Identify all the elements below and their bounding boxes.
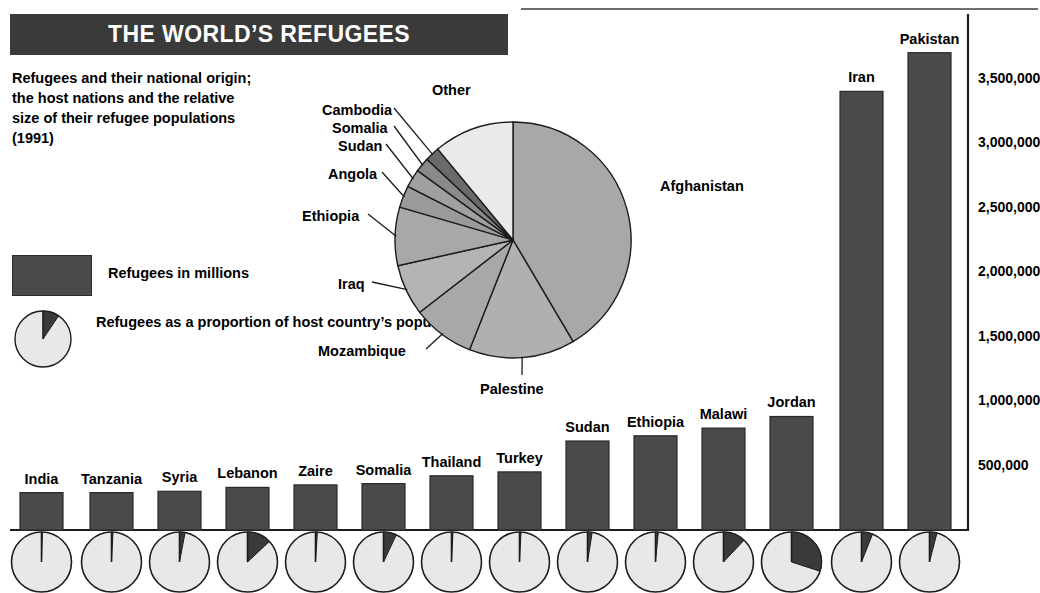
- pie-label-afghanistan: Afghanistan: [660, 178, 744, 194]
- title-bar: THE WORLD’S REFUGEES: [10, 14, 508, 55]
- top-rule-divider: [521, 8, 1038, 10]
- legend-pie-icon: [14, 310, 72, 368]
- y-tick-3500000: 3,500,000: [978, 70, 1040, 86]
- y-tick-2000000: 2,000,000: [978, 263, 1040, 279]
- page-title: THE WORLD’S REFUGEES: [108, 21, 410, 48]
- y-tick-3000000: 3,000,000: [978, 134, 1040, 150]
- legend-pie-label: Refugees as a proportion of host country…: [96, 313, 470, 332]
- pie-label-somalia: Somalia: [332, 120, 388, 136]
- pie-label-palestine: Palestine: [480, 381, 544, 397]
- pie-label-cambodia: Cambodia: [322, 102, 392, 118]
- pie-label-mozambique: Mozambique: [318, 343, 406, 359]
- bar-label-iran: Iran: [812, 69, 912, 85]
- y-tick-2500000: 2,500,000: [978, 199, 1040, 215]
- proportion-pie-row: [12, 532, 960, 592]
- pie-label-other: Other: [432, 82, 471, 98]
- y-tick-1000000: 1,000,000: [978, 392, 1040, 408]
- pie-leader-lines: [368, 108, 522, 375]
- y-tick-500000: 500,000: [978, 457, 1029, 473]
- bar-label-pakistan: Pakistan: [880, 31, 980, 47]
- y-tick-1500000: 1,500,000: [978, 328, 1040, 344]
- pie-label-angola: Angola: [328, 166, 377, 182]
- legend-bar-swatch: [12, 255, 92, 296]
- bar-label-turkey: Turkey: [470, 450, 570, 466]
- pie-label-sudan: Sudan: [338, 138, 382, 154]
- pie-label-ethiopia: Ethiopia: [302, 208, 359, 224]
- subtitle-text: Refugees and their national origin; the …: [12, 68, 262, 148]
- legend-bar-label: Refugees in millions: [108, 265, 249, 281]
- pie-label-iraq: Iraq: [338, 276, 365, 292]
- bar-label-jordan: Jordan: [742, 394, 842, 410]
